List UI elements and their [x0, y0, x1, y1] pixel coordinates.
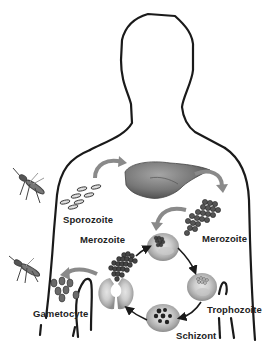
arrow-to-gametocyte — [66, 270, 97, 275]
red-blood-cell-icon — [187, 273, 217, 301]
label-gametocyte: Gametocyte — [33, 308, 88, 319]
red-blood-cell-icon — [147, 233, 179, 261]
gametocyte-icon — [51, 277, 79, 302]
arrow-sporozoite-to-liver — [95, 161, 122, 178]
liver-icon — [125, 162, 210, 199]
sporozoite-icon — [60, 184, 102, 210]
arrow-head — [216, 184, 228, 193]
arrow-head — [151, 222, 163, 231]
label-trophozoite: Trophozoite — [207, 304, 262, 315]
malaria-life-cycle-diagram: Sporozoite Merozoite Merozoite Trophozoi… — [0, 0, 277, 349]
arrow-head — [118, 156, 127, 167]
merozoite-cluster-icon — [184, 199, 220, 235]
mosquito-icon — [9, 256, 41, 283]
arrow-merozoite-to-rbc — [157, 209, 186, 224]
merozoite-cluster-icon — [109, 252, 138, 282]
red-blood-cell-icon — [146, 304, 180, 332]
label-merozoite-liver: Merozoite — [202, 233, 247, 244]
arrow-liver-to-merozoite — [195, 172, 222, 186]
mosquito-icon — [13, 168, 46, 203]
red-blood-cell-icon — [98, 278, 133, 309]
label-schizont: Schizont — [176, 330, 216, 341]
label-sporozoite: Sporozoite — [63, 214, 113, 225]
label-merozoite-blood: Merozoite — [80, 234, 125, 245]
